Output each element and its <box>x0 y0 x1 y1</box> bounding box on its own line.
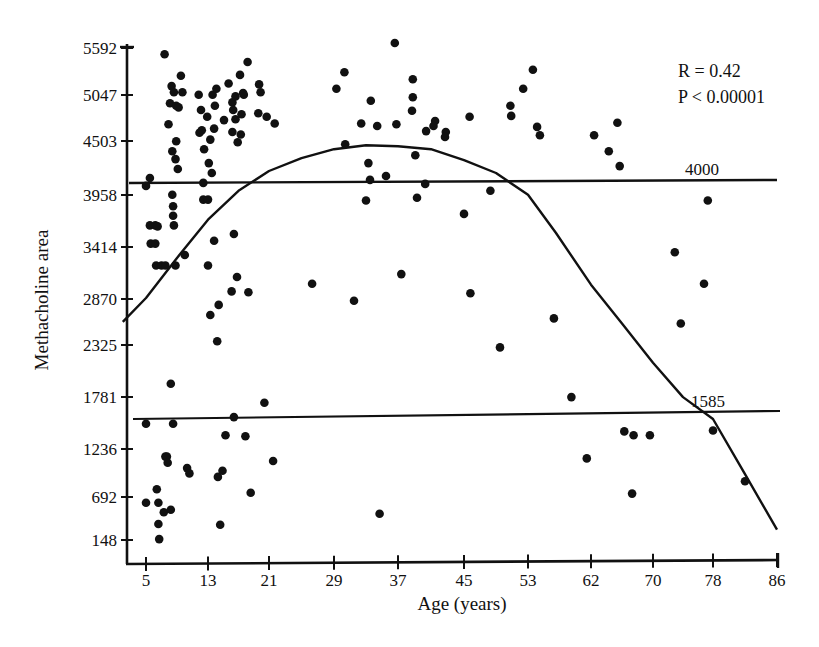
data-point <box>171 155 180 164</box>
data-point <box>206 135 215 144</box>
data-point <box>700 279 709 288</box>
data-point <box>429 122 438 131</box>
data-point <box>142 498 151 507</box>
data-point <box>174 165 183 174</box>
reference-line-high-label: 4000 <box>685 160 719 179</box>
data-point <box>605 147 614 156</box>
data-point <box>168 191 177 200</box>
data-point <box>254 109 263 118</box>
data-point <box>441 133 450 142</box>
data-point <box>220 116 229 125</box>
data-point <box>550 314 559 323</box>
data-point <box>240 90 249 99</box>
data-point <box>204 195 213 204</box>
data-point <box>237 130 246 139</box>
data-point <box>620 427 629 436</box>
data-point <box>167 506 176 515</box>
data-point <box>171 261 180 270</box>
data-point <box>269 457 278 466</box>
data-point <box>230 413 239 422</box>
x-tick-label: 21 <box>261 571 278 590</box>
x-tick-label: 45 <box>456 571 473 590</box>
data-point <box>270 119 279 128</box>
data-point <box>146 174 155 183</box>
data-point <box>177 72 186 81</box>
data-point <box>198 126 207 135</box>
data-point <box>364 159 373 168</box>
data-point <box>230 230 239 239</box>
x-tick-label: 37 <box>390 571 408 590</box>
reference-line-low-label: 1585 <box>691 392 725 411</box>
data-point <box>519 84 528 93</box>
data-point <box>237 110 246 119</box>
data-point <box>486 187 495 196</box>
p-value-label: P < 0.00001 <box>678 87 765 107</box>
data-point <box>244 288 253 297</box>
data-point <box>677 319 686 328</box>
y-tick-label: 148 <box>92 531 118 550</box>
data-point <box>536 131 545 140</box>
data-point <box>260 399 269 408</box>
data-point <box>172 137 181 146</box>
data-point <box>142 420 151 429</box>
data-point <box>200 145 209 154</box>
data-point <box>382 172 391 181</box>
data-point <box>411 151 420 160</box>
y-tick-label: 1236 <box>83 440 117 459</box>
reference-line-4000 <box>129 180 777 183</box>
data-point <box>185 469 194 478</box>
y-tick-label: 692 <box>92 488 118 507</box>
data-point <box>241 432 250 441</box>
data-point <box>506 101 515 110</box>
data-point <box>341 140 350 149</box>
data-point <box>357 119 366 128</box>
data-point <box>397 270 406 279</box>
data-point <box>153 485 162 494</box>
data-point <box>340 68 349 77</box>
data-point <box>413 193 422 202</box>
data-point <box>567 393 576 402</box>
data-point <box>181 251 190 260</box>
data-point <box>367 96 376 105</box>
data-point <box>216 521 225 530</box>
y-tick-label: 5592 <box>83 39 117 58</box>
data-point <box>533 123 542 132</box>
scatter-chart: 1486921236178123252870341439584503504755… <box>0 0 819 647</box>
data-point <box>169 202 178 211</box>
data-point <box>233 273 242 282</box>
data-point <box>160 50 169 59</box>
data-point <box>208 169 217 178</box>
data-point <box>174 103 183 112</box>
data-point <box>422 127 431 136</box>
x-tick-label: 5 <box>142 571 151 590</box>
correlation-r-label: R = 0.42 <box>678 61 741 81</box>
data-point <box>466 289 475 298</box>
data-point <box>409 93 418 102</box>
y-axis-title: Methacholine area <box>31 229 52 370</box>
data-point <box>164 120 173 129</box>
data-point <box>629 431 638 440</box>
data-point <box>203 112 212 121</box>
data-point <box>392 120 401 129</box>
data-point <box>213 337 222 346</box>
data-point <box>375 510 384 519</box>
data-point <box>262 112 271 121</box>
data-point <box>161 261 170 270</box>
data-point <box>646 431 655 440</box>
data-point <box>178 88 187 97</box>
data-point <box>256 88 265 97</box>
data-point <box>590 131 599 140</box>
data-point <box>709 426 718 435</box>
data-point <box>170 88 179 97</box>
data-point <box>350 296 359 305</box>
data-point <box>204 261 213 270</box>
data-point <box>170 221 179 230</box>
data-point <box>671 248 680 257</box>
data-point <box>211 101 220 110</box>
data-point <box>255 80 264 89</box>
data-point <box>194 90 203 99</box>
data-point <box>529 65 538 74</box>
data-point <box>465 112 474 121</box>
reference-lines <box>129 180 780 419</box>
y-tick-label: 2870 <box>83 290 117 309</box>
